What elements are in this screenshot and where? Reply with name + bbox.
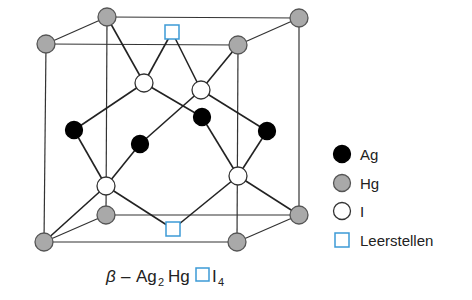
i-atom	[192, 81, 210, 99]
hg-atom	[228, 233, 246, 251]
ag-atom	[132, 136, 149, 153]
bond	[202, 117, 238, 176]
bond	[201, 90, 267, 131]
legend-label-hg: Hg	[360, 175, 379, 192]
i-atom	[97, 177, 115, 195]
formula-i: I	[212, 267, 217, 286]
cube-edge	[237, 45, 238, 242]
legend-markers	[334, 146, 351, 248]
hg-atom	[229, 36, 247, 54]
cube-edge	[237, 215, 299, 242]
formula-hg: Hg	[168, 267, 190, 286]
bond	[74, 130, 106, 186]
vacancy-site	[165, 25, 179, 39]
ag-atom	[259, 123, 276, 140]
formula-ag-subscript: 2	[158, 276, 164, 288]
bond	[238, 176, 299, 215]
cube-edge	[46, 44, 238, 45]
vacancy-site	[166, 222, 180, 236]
hg-atom	[290, 206, 308, 224]
bond	[107, 17, 144, 83]
cube-edge	[238, 18, 299, 45]
hg-atom	[37, 35, 55, 53]
legend-label-vacancy: Leerstellen	[360, 232, 433, 249]
i-atom	[229, 167, 247, 185]
legend-label-i: I	[360, 203, 364, 220]
hg-atom	[98, 8, 116, 26]
legend-marker-hg-icon	[334, 175, 351, 192]
legend-marker-ag-icon	[334, 146, 351, 163]
cube-edge	[107, 17, 299, 18]
legend-marker-i-icon	[334, 203, 351, 220]
bond	[172, 32, 201, 90]
i-atom	[135, 74, 153, 92]
bond	[173, 176, 238, 229]
cube-edge	[46, 17, 107, 44]
formula-i-subscript: 4	[218, 276, 224, 288]
legend-marker-vacancy-icon	[335, 233, 349, 247]
bond	[74, 83, 144, 130]
hg-atom	[35, 233, 53, 251]
legend: Ag Hg I Leerstellen	[334, 146, 434, 250]
ag-atom	[194, 109, 211, 126]
cube-edge	[44, 215, 106, 242]
formula-caption: β – Ag 2 Hg I 4	[105, 267, 224, 288]
ag-atom	[66, 122, 83, 139]
bond	[106, 186, 173, 229]
hg-atom	[290, 9, 308, 27]
crystal-structure-diagram: Ag Hg I Leerstellen β – Ag 2 Hg I 4	[0, 0, 472, 300]
formula-dash: –	[121, 267, 131, 286]
legend-label-ag: Ag	[360, 146, 378, 163]
formula-ag: Ag	[136, 267, 157, 286]
formula-vacancy-square-icon	[196, 268, 209, 281]
hg-atom	[97, 206, 115, 224]
cube-edge	[44, 44, 46, 242]
formula-beta: β	[105, 267, 116, 286]
